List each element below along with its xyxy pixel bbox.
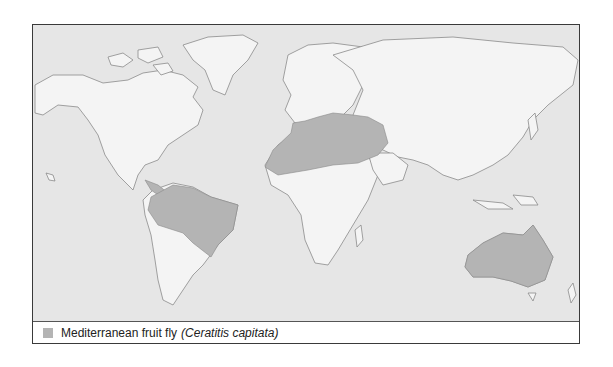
legend-swatch: [43, 328, 53, 338]
world-map: [33, 25, 579, 322]
map-figure: Mediterranean fruit fly (Ceratitis capit…: [32, 24, 580, 344]
map-legend: Mediterranean fruit fly (Ceratitis capit…: [33, 322, 579, 344]
north-america: [35, 70, 203, 190]
world-map-graphic: [33, 25, 579, 321]
legend-label: Mediterranean fruit fly: [61, 326, 177, 340]
legend-species-name: (Ceratitis capitata): [181, 326, 278, 340]
